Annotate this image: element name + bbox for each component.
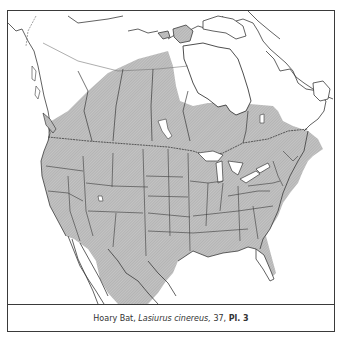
caption-scientific-name: Lasiurus cinereus, [138,314,211,323]
north-america-map [8,11,333,304]
caption-plate: Pl. 3 [229,314,249,323]
range-map [8,11,333,304]
lake-small-quebec [260,114,264,123]
map-frame: Hoary Bat, Lasiurus cinereus, 37, Pl. 3 [7,10,335,332]
caption-common-name: Hoary Bat, [93,314,135,323]
caption-page: 37, [213,314,226,323]
map-caption: Hoary Bat, Lasiurus cinereus, 37, Pl. 3 [8,306,334,331]
caption-divider [8,304,334,305]
great-salt-lake [98,196,103,201]
